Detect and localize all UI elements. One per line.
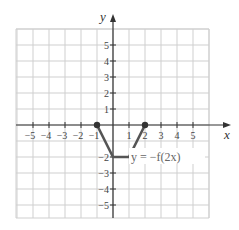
svg-text:5: 5 <box>104 40 109 51</box>
svg-text:−3: −3 <box>57 130 68 141</box>
svg-text:3: 3 <box>159 130 164 141</box>
x-axis-label: x <box>223 127 230 142</box>
coordinate-plot: −5−4−3−2−11234554321−2−3−4−5 x y y = −f(… <box>0 0 239 230</box>
svg-text:−5: −5 <box>25 130 36 141</box>
svg-text:2: 2 <box>104 88 109 99</box>
svg-text:2: 2 <box>143 130 148 141</box>
svg-text:−1: −1 <box>89 130 100 141</box>
svg-text:3: 3 <box>104 72 109 83</box>
svg-text:−4: −4 <box>98 184 109 195</box>
svg-text:−2: −2 <box>98 152 109 163</box>
svg-text:1: 1 <box>127 130 132 141</box>
svg-text:−4: −4 <box>41 130 52 141</box>
equation-label: y = −f(2x) <box>131 150 181 164</box>
svg-text:1: 1 <box>104 104 109 115</box>
svg-text:5: 5 <box>191 130 196 141</box>
svg-text:−2: −2 <box>73 130 84 141</box>
svg-text:−3: −3 <box>98 168 109 179</box>
svg-text:4: 4 <box>104 56 109 67</box>
y-axis-label: y <box>98 9 106 24</box>
svg-text:4: 4 <box>175 130 180 141</box>
svg-text:−5: −5 <box>98 200 109 211</box>
